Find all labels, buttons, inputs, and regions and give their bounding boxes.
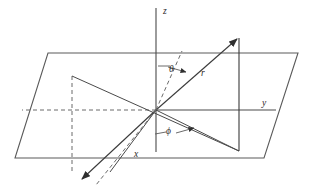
- phi-angle-tick: [155, 132, 166, 134]
- x-axis-dashed-guide: [96, 110, 156, 185]
- coordinate-system-svg: z y x r θ ϕ: [0, 0, 311, 190]
- x-axis-label: x: [133, 149, 139, 159]
- r-vector-label: r: [201, 68, 205, 78]
- phi-angle-label: ϕ: [166, 126, 171, 136]
- x-axis-arrow: [82, 110, 156, 179]
- y-axis-label: y: [261, 98, 267, 108]
- r-vector-arrow: [156, 39, 237, 110]
- spherical-coordinate-diagram: z y x r θ ϕ: [0, 0, 311, 190]
- theta-angle-label: θ: [169, 64, 174, 74]
- theta-reference-dashed-line: [156, 51, 182, 110]
- projection-line-lower-left: [110, 110, 156, 172]
- phi-angle-arrow: [176, 128, 194, 133]
- z-axis-label: z: [162, 6, 167, 16]
